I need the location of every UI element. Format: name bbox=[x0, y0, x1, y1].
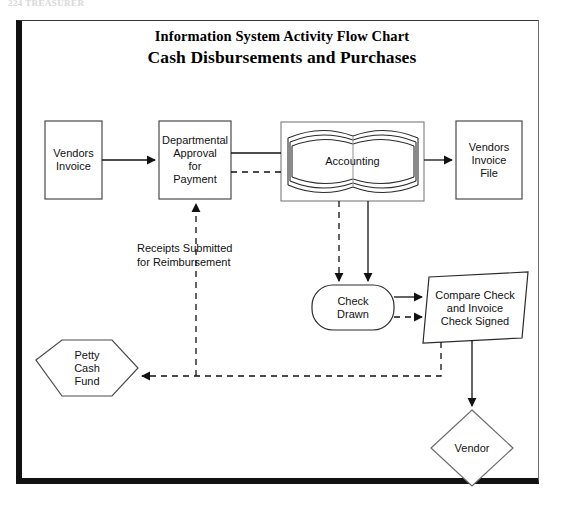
node-compare-check bbox=[423, 272, 528, 343]
node-vendors-invoice bbox=[45, 121, 102, 199]
annotation-receipts-submitted: Receipts Submitted for Reimbursement bbox=[137, 242, 272, 269]
running-head: 224 TREASURER bbox=[8, 0, 84, 8]
node-departmental-approval bbox=[159, 121, 231, 199]
flowchart-vectors bbox=[16, 20, 539, 484]
node-petty-cash-fund bbox=[36, 340, 138, 396]
node-vendors-invoice-file bbox=[456, 121, 522, 199]
node-check-drawn bbox=[312, 285, 394, 330]
scanned-page: 224 TREASURER Information System Activit… bbox=[0, 0, 564, 517]
flowchart-canvas: Vendors Invoice Departmental Approval fo… bbox=[16, 20, 539, 484]
node-vendor bbox=[431, 410, 513, 486]
edge-compare-to-petty-cash bbox=[142, 342, 441, 376]
